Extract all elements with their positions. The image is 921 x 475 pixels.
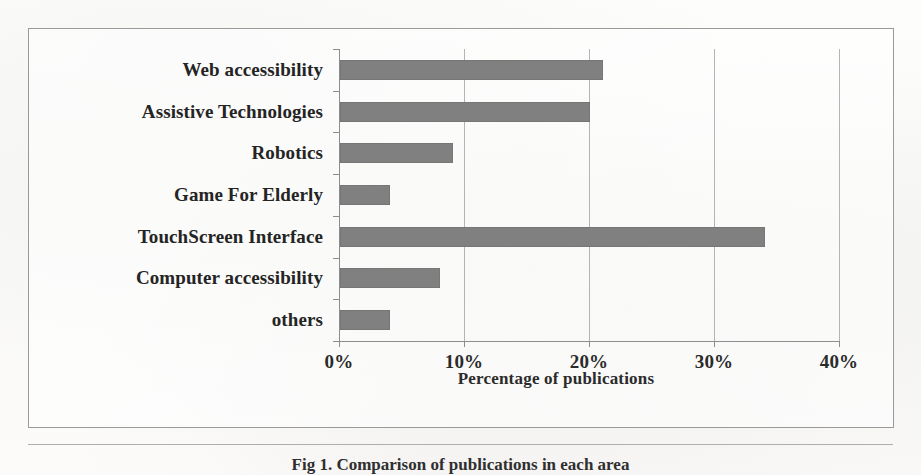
x-tick-30% (714, 341, 715, 347)
y-tick (333, 258, 339, 259)
x-tick-40% (839, 341, 840, 347)
y-tick (333, 299, 339, 300)
gridline-40% (839, 49, 840, 341)
y-tick (333, 216, 339, 217)
gridline-20% (589, 49, 590, 341)
bar (340, 102, 590, 122)
bar (340, 143, 453, 163)
horizontal-rule (28, 444, 893, 445)
y-tick (333, 341, 339, 342)
category-label: Game For Elderly (174, 184, 323, 206)
category-label: Computer accessibility (136, 267, 323, 289)
figure-caption: Fig 1. Comparison of publications in eac… (0, 455, 921, 475)
bar (340, 227, 765, 247)
x-tick-0% (339, 341, 340, 347)
category-label: Web accessibility (183, 59, 324, 81)
y-tick (333, 132, 339, 133)
bar (340, 60, 603, 80)
gridline-30% (714, 49, 715, 341)
gridline-10% (464, 49, 465, 341)
x-axis-title-text: Percentage of publications (268, 369, 655, 388)
x-axis-title: Percentage of publications (29, 369, 893, 389)
bar (340, 185, 390, 205)
x-tick-20% (589, 341, 590, 347)
category-label: others (272, 309, 323, 331)
y-tick (333, 91, 339, 92)
category-label: Robotics (251, 142, 323, 164)
category-label: TouchScreen Interface (138, 226, 323, 248)
y-tick (333, 49, 339, 50)
bar (340, 310, 390, 330)
y-tick (333, 174, 339, 175)
chart-frame: 0%10%20%30%40% Web accessibilityAssistiv… (28, 28, 894, 428)
category-label: Assistive Technologies (142, 101, 323, 123)
bar (340, 268, 440, 288)
x-tick-10% (464, 341, 465, 347)
plot-area: 0%10%20%30%40% Web accessibilityAssistiv… (339, 49, 839, 341)
